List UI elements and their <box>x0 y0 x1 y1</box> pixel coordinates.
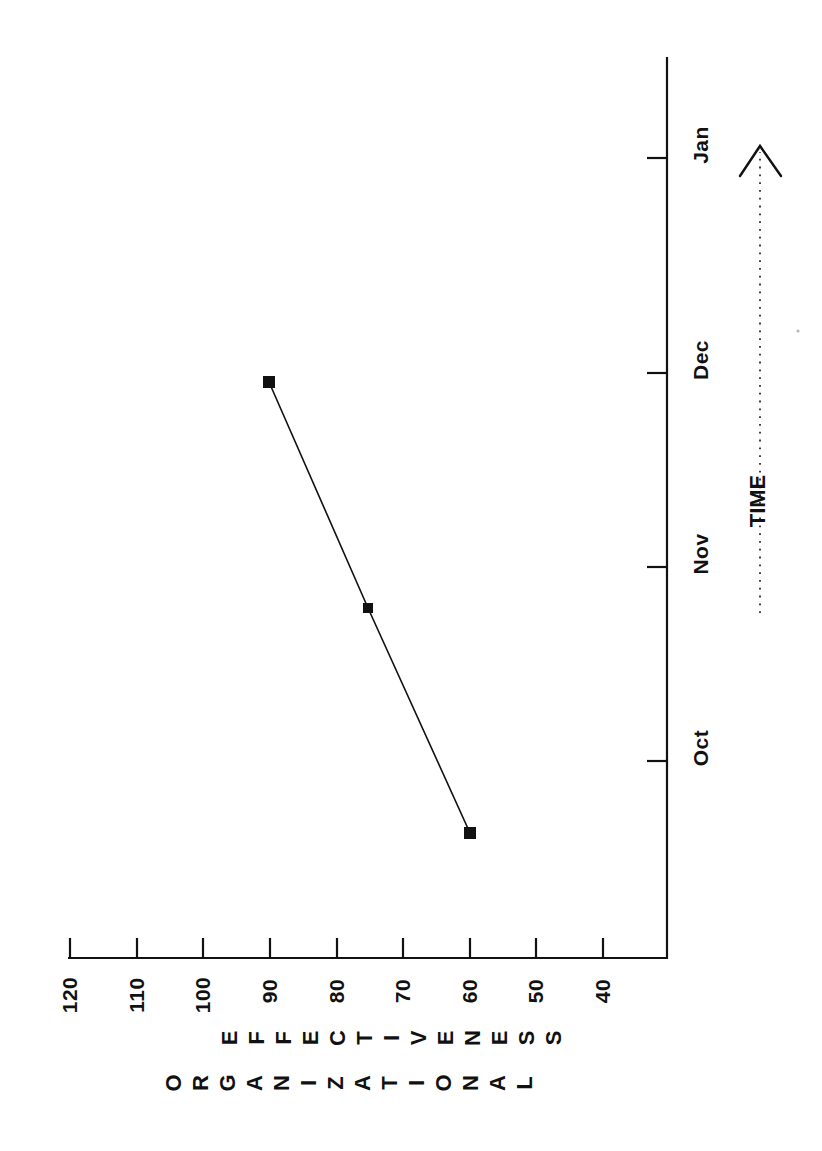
time-axis-ticks <box>647 158 667 761</box>
axis-title-glyph: A <box>485 1070 511 1097</box>
axis-title-glyph: R <box>188 1070 214 1097</box>
axis-title-glyph: T <box>352 1025 378 1052</box>
axis-title-glyph: E <box>433 1025 459 1052</box>
axis-title-glyph: F <box>271 1025 297 1052</box>
value-tick-label-110: 110 <box>125 965 149 1025</box>
scan-speck <box>796 329 799 332</box>
figure-canvas: 120 110 100 90 80 70 60 50 40 Jan Dec No… <box>0 0 822 1151</box>
time-tick-label-dec: Dec <box>689 325 713 395</box>
axis-title-glyph: S <box>541 1025 567 1052</box>
value-tick-label-50: 50 <box>524 963 548 1019</box>
axis-title-glyph: E <box>217 1025 243 1052</box>
value-tick-label-80: 80 <box>325 963 349 1019</box>
axis-title-glyph: O <box>161 1070 187 1097</box>
value-tick-label-70: 70 <box>391 963 415 1019</box>
axis-title-glyph: O <box>431 1070 457 1097</box>
time-tick-label-jan: Jan <box>689 110 713 180</box>
axis-title-glyph: N <box>269 1070 295 1097</box>
axis-title-glyph: N <box>460 1025 486 1052</box>
axis-title-glyph: F <box>244 1025 270 1052</box>
axis-title-glyph: E <box>298 1025 324 1052</box>
axis-title-glyph: A <box>242 1070 268 1097</box>
value-axis-title-line-1: ORGANIZATIONAL <box>160 1070 538 1096</box>
data-point-oct <box>464 827 476 839</box>
time-axis-label: TIME <box>745 446 771 556</box>
value-tick-label-100: 100 <box>191 965 215 1025</box>
axis-title-glyph: I <box>404 1070 430 1097</box>
value-tick-label-90: 90 <box>258 963 282 1019</box>
axis-title-glyph: S <box>514 1025 540 1052</box>
axis-title-glyph: E <box>487 1025 513 1052</box>
axis-title-glyph: V <box>406 1025 432 1052</box>
data-point-markers <box>263 376 476 839</box>
axis-title-glyph: T <box>377 1070 403 1097</box>
value-axis-ticks <box>70 938 603 958</box>
axis-title-glyph: C <box>325 1025 351 1052</box>
axis-title-glyph: A <box>350 1070 376 1097</box>
axis-title-glyph: I <box>379 1025 405 1052</box>
axis-title-glyph: N <box>458 1070 484 1097</box>
value-axis-title-line-2: EFFECTIVENESS <box>216 1025 567 1051</box>
axis-title-glyph: Z <box>323 1070 349 1097</box>
value-tick-label-40: 40 <box>591 963 615 1019</box>
time-tick-label-oct: Oct <box>689 713 713 783</box>
axis-title-glyph: I <box>296 1070 322 1097</box>
axis-title-glyph: L <box>512 1070 538 1097</box>
data-point-dec <box>263 376 275 388</box>
value-tick-label-120: 120 <box>58 965 82 1025</box>
axis-title-glyph: G <box>215 1070 241 1097</box>
data-point-nov <box>363 603 373 613</box>
value-tick-label-60: 60 <box>458 963 482 1019</box>
time-tick-label-nov: Nov <box>689 519 713 589</box>
